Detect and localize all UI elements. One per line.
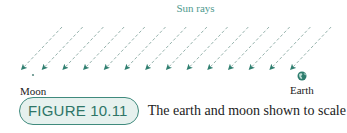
sun-ray-arrow: [208, 27, 248, 69]
earth-label: Earth: [290, 84, 314, 96]
figure-number-badge: FIGURE 10.11: [19, 97, 139, 125]
sun-ray-arrow: [188, 27, 228, 69]
figure: Sun rays Moon Earth FIGURE 10.11 The ear…: [0, 0, 347, 133]
sun-ray-arrow: [43, 27, 83, 69]
figure-caption: FIGURE 10.11 The earth and moon shown to…: [19, 97, 346, 125]
sun-ray-arrow: [22, 27, 62, 69]
sun-ray-arrows: [22, 27, 331, 69]
sun-ray-arrow: [84, 27, 124, 69]
earth-icon: [298, 72, 307, 81]
caption-text: The earth and moon shown to scale: [148, 103, 346, 119]
sun-ray-arrow: [250, 27, 290, 69]
sun-ray-arrow: [229, 27, 269, 69]
sun-ray-arrow: [291, 27, 331, 69]
sun-ray-arrow: [63, 27, 103, 69]
sun-ray-arrow: [126, 27, 166, 69]
moon-icon: [32, 74, 34, 76]
sun-ray-arrow: [167, 27, 207, 69]
sun-rays-diagram: [0, 0, 347, 95]
sun-ray-arrow: [105, 27, 145, 69]
moon-label: Moon: [20, 85, 46, 97]
sun-ray-arrow: [270, 27, 310, 69]
sun-ray-arrow: [146, 27, 186, 69]
